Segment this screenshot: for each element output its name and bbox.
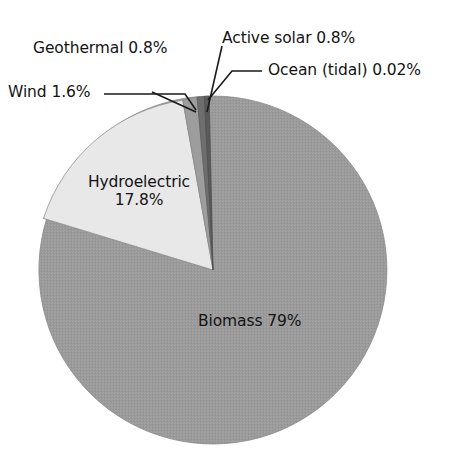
slice-label-hydroelectric: Hydroelectric 17.8%	[74, 173, 204, 210]
pie-chart: Geothermal 0.8% Wind 1.6% Active solar 0…	[0, 0, 451, 459]
slice-label-wind: Wind 1.6%	[8, 83, 90, 101]
slice-label-hydroelectric-value: 17.8%	[115, 191, 164, 209]
slice-label-biomass: Biomass 79%	[198, 312, 301, 330]
slice-label-geothermal: Geothermal 0.8%	[33, 39, 167, 57]
slice-label-active-solar: Active solar 0.8%	[222, 29, 355, 47]
slice-label-hydroelectric-name: Hydroelectric	[88, 173, 190, 191]
slice-label-ocean: Ocean (tidal) 0.02%	[268, 61, 421, 79]
